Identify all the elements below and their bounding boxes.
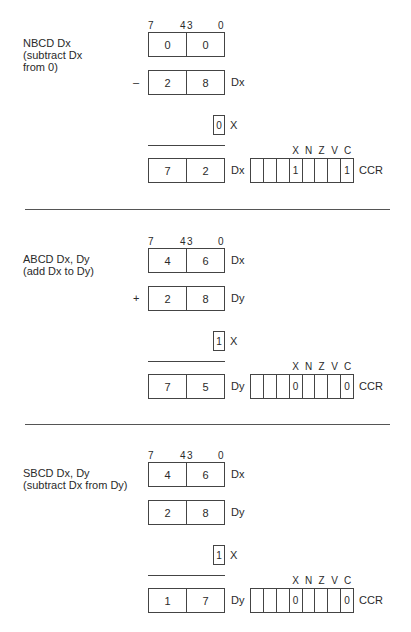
ccr-bit-x: 1: [289, 159, 302, 182]
bit-label-0: 0: [218, 450, 224, 461]
operator-sign: –: [133, 70, 139, 95]
operand2-register: 2 8: [148, 286, 225, 311]
high-nibble: 2: [149, 287, 186, 310]
high-nibble: 4: [149, 249, 186, 272]
instruction-label: SBCD Dx, Dy (subtract Dx from Dy): [23, 467, 128, 491]
x-bit-label: X: [230, 545, 237, 565]
low-nibble: 6: [186, 249, 224, 272]
flag-n: N: [302, 145, 315, 156]
ccr-bit-6: [263, 375, 276, 398]
bcd-operation-section-2: ABCD Dx, Dy (add Dx to Dy) 7 4 3 0 4 6 D…: [0, 248, 411, 448]
x-bit-box: 1: [213, 331, 225, 351]
result-name: Dx: [231, 158, 244, 183]
instruction-label: ABCD Dx, Dy (add Dx to Dy): [23, 253, 94, 277]
high-nibble: 2: [149, 501, 186, 524]
ccr-bit-x: 0: [289, 589, 302, 612]
high-nibble: 7: [149, 375, 186, 398]
operand2-register: 2 8: [148, 70, 225, 95]
result-register: 7 2: [148, 158, 225, 183]
ccr-bit-n: [302, 159, 315, 182]
ccr-bit-7: [251, 159, 263, 182]
ccr-bit-c: 1: [340, 159, 353, 182]
flag-x: X: [289, 145, 302, 156]
ccr-register: 0 0: [250, 588, 354, 613]
flag-x: X: [289, 361, 302, 372]
ccr-bit-x: 0: [289, 375, 302, 398]
low-nibble: 5: [186, 375, 224, 398]
bcd-operation-section-3: SBCD Dx, Dy (subtract Dx from Dy) 7 4 3 …: [0, 462, 411, 632]
ccr-label: CCR: [359, 374, 383, 399]
operand1-register: 0 0: [148, 32, 225, 57]
flag-z: Z: [315, 575, 328, 586]
flag-v: V: [328, 361, 341, 372]
ccr-bit-6: [263, 159, 276, 182]
x-bit-box: 1: [213, 545, 225, 565]
operand2-register: 2 8: [148, 500, 225, 525]
result-name: Dy: [231, 588, 244, 613]
operand1-register: 4 6: [148, 248, 225, 273]
ccr-flag-labels: X N Z V C: [289, 575, 354, 586]
high-nibble: 0: [149, 33, 186, 56]
result-name: Dy: [231, 374, 244, 399]
ccr-label: CCR: [359, 158, 383, 183]
high-nibble: 2: [149, 71, 186, 94]
x-bit-box: 0: [213, 115, 225, 135]
result-register: 1 7: [148, 588, 225, 613]
ccr-bit-v: [327, 159, 340, 182]
ccr-bit-7: [251, 589, 263, 612]
bit-label-3: 3: [187, 20, 193, 31]
ccr-bit-c: 0: [340, 589, 353, 612]
bit-label-3: 3: [187, 236, 193, 247]
ccr-flag-labels: X N Z V C: [289, 145, 354, 156]
ccr-label: CCR: [359, 588, 383, 613]
high-nibble: 1: [149, 589, 186, 612]
ccr-register: 0 0: [250, 374, 354, 399]
flag-z: Z: [315, 361, 328, 372]
operand1-register: 4 6: [148, 462, 225, 487]
bit-label-7: 7: [148, 450, 154, 461]
flag-v: V: [328, 575, 341, 586]
bit-label-0: 0: [218, 20, 224, 31]
flag-n: N: [302, 361, 315, 372]
flag-z: Z: [315, 145, 328, 156]
low-nibble: 8: [186, 287, 224, 310]
operand2-name: Dx: [231, 70, 244, 95]
low-nibble: 8: [186, 501, 224, 524]
ccr-bit-z: [314, 589, 327, 612]
bit-label-3: 3: [187, 450, 193, 461]
high-nibble: 4: [149, 463, 186, 486]
flag-c: C: [341, 361, 354, 372]
ccr-bit-c: 0: [340, 375, 353, 398]
ccr-flag-labels: X N Z V C: [289, 361, 354, 372]
low-nibble: 2: [186, 159, 224, 182]
bit-label-4: 4: [180, 450, 186, 461]
ccr-bit-5: [276, 589, 289, 612]
bcd-operation-section-1: NBCD Dx (subtract Dx from 0) 7 4 3 0 0 0…: [0, 32, 411, 232]
ccr-bit-6: [263, 589, 276, 612]
ccr-bit-n: [302, 375, 315, 398]
x-bit-label: X: [230, 331, 237, 351]
operand2-name: Dy: [231, 286, 244, 311]
flag-c: C: [341, 145, 354, 156]
flag-n: N: [302, 575, 315, 586]
sum-line: [148, 361, 225, 362]
bit-label-4: 4: [180, 20, 186, 31]
high-nibble: 7: [149, 159, 186, 182]
ccr-bit-7: [251, 375, 263, 398]
flag-x: X: [289, 575, 302, 586]
flag-v: V: [328, 145, 341, 156]
low-nibble: 7: [186, 589, 224, 612]
section-divider: [25, 424, 390, 425]
ccr-bit-v: [327, 589, 340, 612]
low-nibble: 8: [186, 71, 224, 94]
sum-line: [148, 575, 225, 576]
low-nibble: 6: [186, 463, 224, 486]
operand2-name: Dy: [231, 500, 244, 525]
operand1-name: Dx: [231, 248, 244, 273]
result-register: 7 5: [148, 374, 225, 399]
bit-label-4: 4: [180, 236, 186, 247]
operand1-name: Dx: [231, 462, 244, 487]
bit-label-7: 7: [148, 20, 154, 31]
sum-line: [148, 145, 225, 146]
ccr-bit-z: [314, 159, 327, 182]
